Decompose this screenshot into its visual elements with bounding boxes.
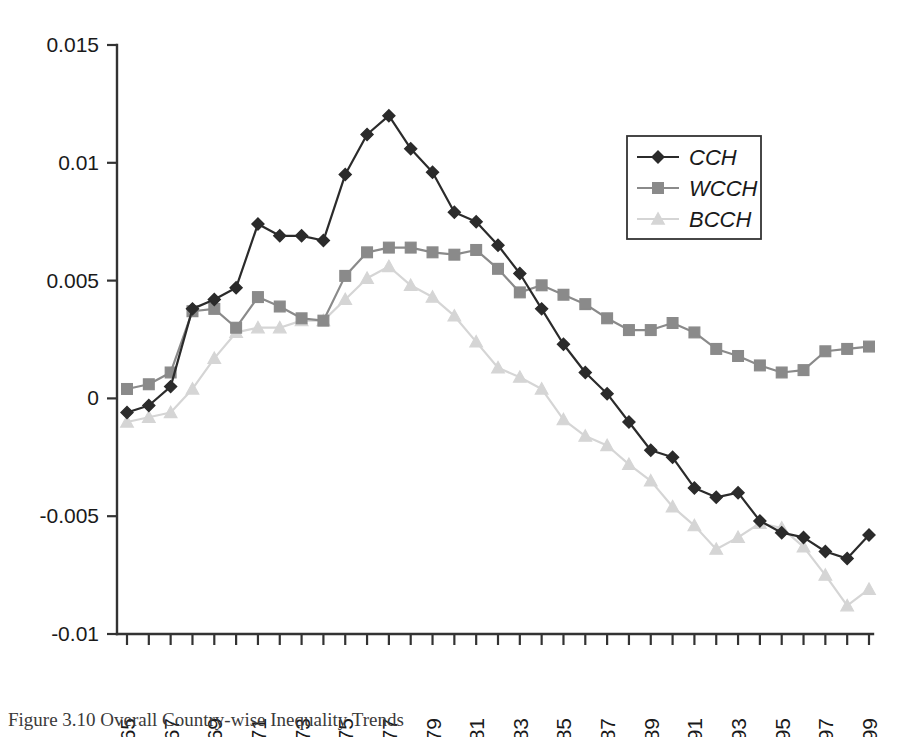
data-point-wcch [427, 247, 438, 258]
data-point-wcch [362, 247, 373, 258]
data-point-cch [819, 546, 831, 558]
data-point-wcch [580, 299, 591, 310]
data-point-wcch [798, 365, 809, 376]
data-point-wcch [274, 301, 285, 312]
data-point-wcch [602, 313, 613, 324]
y-tick-label: 0.015 [46, 33, 99, 56]
data-point-wcch [143, 379, 154, 390]
data-point-cch [274, 230, 286, 242]
data-point-bcch [732, 531, 745, 543]
data-point-bcch [601, 439, 614, 451]
series-bcch [121, 260, 876, 611]
data-point-wcch [864, 341, 875, 352]
data-point-cch [448, 206, 460, 218]
data-point-wcch [253, 292, 264, 303]
data-point-wcch [733, 351, 744, 362]
data-point-cch [296, 230, 308, 242]
data-point-wcch [449, 249, 460, 260]
legend-label-bcch: BCCH [689, 207, 751, 232]
figure-caption-text: Figure 3.10 Overall Country-wise Inequal… [8, 713, 903, 731]
data-point-wcch [471, 245, 482, 256]
y-tick-label: 0.01 [58, 151, 99, 174]
data-point-wcch [776, 367, 787, 378]
data-point-bcch [361, 272, 374, 284]
data-point-wcch [711, 344, 722, 355]
data-point-cch [536, 303, 548, 315]
data-point-cch [121, 407, 133, 419]
data-point-wcch [820, 346, 831, 357]
data-point-cch [317, 235, 329, 247]
data-point-wcch [754, 360, 765, 371]
data-point-bcch [513, 371, 526, 383]
data-point-cch [252, 218, 264, 230]
y-tick-label: 0.005 [46, 269, 99, 292]
y-tick-label: -0.005 [39, 504, 99, 527]
series-line-bcch [127, 266, 869, 605]
legend-label-cch: CCH [689, 145, 737, 170]
line-chart: 0.0150.010.0050-0.005-0.01 1965196719691… [0, 0, 903, 737]
data-point-wcch [340, 270, 351, 281]
data-point-wcch [122, 384, 133, 395]
data-point-wcch [689, 327, 700, 338]
y-tick-label: 0 [87, 386, 99, 409]
data-point-wcch [558, 289, 569, 300]
data-point-wcch [645, 325, 656, 336]
data-point-bcch [535, 383, 548, 395]
data-point-wcch [667, 318, 678, 329]
data-point-wcch [514, 287, 525, 298]
data-point-cch [339, 169, 351, 181]
chart-legend: CCHWCCHBCCH [627, 136, 761, 239]
data-point-wcch [842, 344, 853, 355]
data-point-wcch [536, 280, 547, 291]
data-point-cch [798, 531, 810, 543]
data-point-wcch [405, 242, 416, 253]
data-point-bcch [426, 291, 439, 303]
series-layer [121, 110, 876, 611]
data-point-wcch [493, 263, 504, 274]
legend-square-marker [653, 183, 664, 194]
figure-caption: Figure 3.10 Overall Country-wise Inequal… [0, 713, 903, 737]
data-point-wcch [296, 313, 307, 324]
data-point-wcch [383, 242, 394, 253]
figure-container: 0.0150.010.0050-0.005-0.01 1965196719691… [0, 0, 903, 737]
data-point-bcch [863, 583, 876, 595]
data-point-wcch [231, 322, 242, 333]
data-point-cch [710, 491, 722, 503]
y-axis: 0.0150.010.0050-0.005-0.01 [39, 33, 117, 645]
data-point-bcch [382, 260, 395, 272]
y-tick-label: -0.01 [51, 622, 99, 645]
data-point-cch [230, 282, 242, 294]
data-point-wcch [318, 315, 329, 326]
data-point-wcch [624, 325, 635, 336]
legend-label-wcch: WCCH [689, 176, 758, 201]
